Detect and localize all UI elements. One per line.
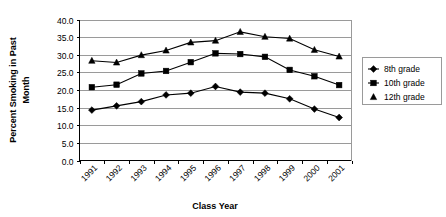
y-tick-labels: 0.05.010.015.020.025.030.035.040.0 — [57, 16, 74, 167]
legend-label: 10th grade — [384, 78, 425, 88]
data-point — [163, 92, 170, 99]
x-axis-title-label: Class Year — [192, 201, 238, 211]
data-point — [139, 71, 145, 77]
legend: 8th grade10th grade12th grade — [363, 58, 442, 105]
series-lines — [88, 28, 342, 120]
y-axis-title: Percent Smoking in Past Month — [8, 37, 31, 143]
chart-container: 0.05.010.015.020.025.030.035.040.0 19911… — [0, 0, 446, 217]
data-point — [163, 68, 169, 74]
x-tick-label: 2000 — [301, 163, 322, 184]
x-tick-label: 1996 — [202, 163, 223, 184]
y-tick-label: 20.0 — [57, 86, 74, 96]
x-tick-label: 1998 — [252, 163, 273, 184]
data-point — [311, 46, 317, 52]
y-tick-label: 15.0 — [57, 104, 74, 114]
legend-label: 8th grade — [384, 64, 420, 74]
data-point — [286, 95, 293, 102]
data-point — [114, 82, 120, 88]
data-point — [311, 106, 318, 113]
x-tick-label: 2001 — [326, 163, 347, 184]
y-tick-label: 10.0 — [57, 121, 74, 131]
data-point — [262, 54, 268, 60]
line-chart: 0.05.010.015.020.025.030.035.040.0 19911… — [0, 0, 446, 217]
data-point — [89, 57, 95, 63]
y-tick-label: 0.0 — [62, 157, 74, 167]
x-tick-label: 1999 — [277, 163, 298, 184]
series-line — [92, 86, 339, 117]
y-tick-label: 25.0 — [57, 68, 74, 78]
x-tick-label: 1992 — [104, 163, 125, 184]
data-point — [287, 67, 293, 73]
data-point — [88, 107, 95, 114]
x-tick-labels: 1991199219931994199519961997199819992000… — [79, 163, 347, 184]
data-point — [237, 28, 243, 34]
x-tick-label: 1993 — [128, 163, 149, 184]
data-point — [237, 89, 244, 96]
data-point — [188, 59, 194, 65]
y-tick-label: 30.0 — [57, 51, 74, 61]
x-tick-label: 1994 — [153, 163, 174, 184]
data-point — [213, 51, 219, 57]
data-point — [336, 82, 342, 88]
data-point — [138, 98, 145, 105]
y-tick-label: 40.0 — [57, 16, 74, 26]
data-point — [336, 114, 343, 121]
legend-marker-square-icon — [371, 80, 377, 86]
y-axis-title-line1: Percent Smoking in Past — [8, 37, 18, 143]
series-line — [92, 32, 339, 63]
y-tick-label: 5.0 — [62, 139, 74, 149]
series-12th-grade — [89, 28, 343, 65]
legend-label: 12th grade — [384, 92, 425, 102]
x-axis-title: Class Year — [192, 201, 238, 211]
data-point — [237, 51, 243, 57]
x-tick-label: 1991 — [79, 163, 100, 184]
y-tick-label: 35.0 — [57, 33, 74, 43]
y-axis-title-line2: Month — [21, 77, 31, 104]
data-point — [312, 73, 318, 79]
x-tick-label: 1995 — [178, 163, 199, 184]
x-tick-label: 1997 — [227, 163, 248, 184]
data-point — [212, 83, 219, 90]
data-point — [89, 84, 95, 90]
series-8th-grade — [88, 83, 342, 121]
